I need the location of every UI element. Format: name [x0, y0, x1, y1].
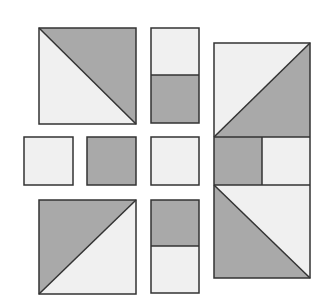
assembled-block-right	[214, 43, 310, 278]
rect-dark-half	[151, 200, 199, 246]
square-mid-right-light	[151, 137, 199, 185]
half-square-triangle-top-left	[39, 28, 136, 124]
square-mid-center-dark	[87, 137, 136, 185]
rect-light-half	[151, 246, 199, 293]
rect-dark-half	[151, 75, 199, 123]
square-mid-left-light	[24, 137, 73, 185]
rect-top-middle	[151, 28, 199, 123]
half-square-triangle-bottom-left	[39, 200, 136, 294]
rect-bottom-middle	[151, 200, 199, 293]
quilt-pieces-diagram	[0, 0, 330, 301]
rect-light-half	[151, 28, 199, 75]
diagram-svg	[0, 0, 330, 301]
middle-dark-square	[214, 137, 262, 185]
middle-light-square	[262, 137, 310, 185]
